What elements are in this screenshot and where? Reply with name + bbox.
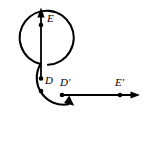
label-field-lower: E' xyxy=(115,77,124,88)
displacement-upper-dot xyxy=(39,76,44,81)
displacement-lower-dot xyxy=(60,93,65,98)
label-field-upper: E xyxy=(47,13,54,24)
vertical-vector-tick-dot xyxy=(39,23,44,28)
circle-center-dot xyxy=(39,89,44,94)
label-displacement-upper: D xyxy=(45,75,53,86)
horizontal-arrowhead-icon xyxy=(131,91,141,98)
horizontal-vector-tick-dot xyxy=(118,93,123,98)
vector-field-diagram xyxy=(0,0,144,148)
figure-canvas: E D D' E' xyxy=(0,0,144,148)
label-displacement-lower: D' xyxy=(60,77,70,88)
circular-arc xyxy=(20,11,74,105)
